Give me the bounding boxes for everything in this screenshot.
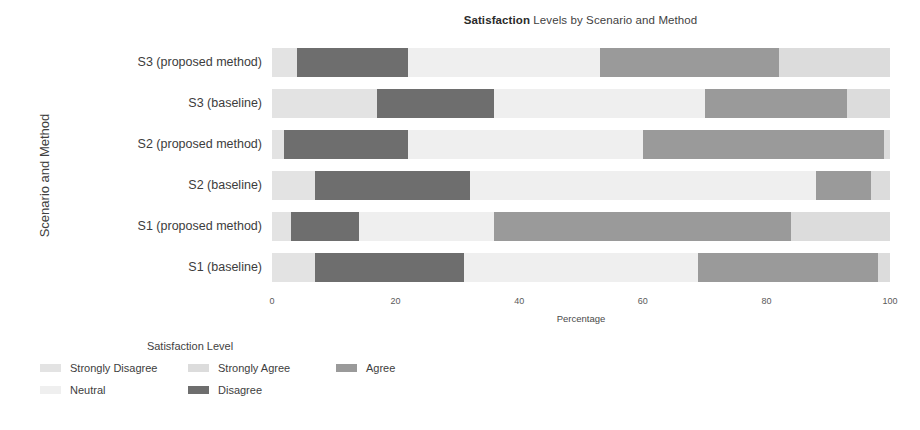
bar-row xyxy=(272,48,890,77)
bar-segment xyxy=(494,212,791,241)
legend-swatch-icon xyxy=(188,364,209,372)
legend-title: Satisfaction Level xyxy=(40,340,340,352)
legend-item-label: Strongly Disagree xyxy=(70,362,157,374)
x-axis-tick-label: 20 xyxy=(391,296,401,306)
bar-segment xyxy=(272,253,315,282)
bar-segment xyxy=(884,130,890,159)
bar-segment xyxy=(871,171,890,200)
bar-row xyxy=(272,130,890,159)
chart-title-rest: Levels by Scenario and Method xyxy=(530,14,697,26)
bar-segment xyxy=(779,48,890,77)
bar-segment xyxy=(377,89,494,118)
legend: Satisfaction Level Strongly DisagreeDisa… xyxy=(40,340,460,412)
plot-area xyxy=(272,44,890,292)
bar-row xyxy=(272,171,890,200)
y-axis-tick-label: S1 (proposed method) xyxy=(12,219,262,233)
bar-row xyxy=(272,253,890,282)
bar-segment xyxy=(464,253,699,282)
y-axis-tick-label: S3 (baseline) xyxy=(12,96,262,110)
bar-segment xyxy=(408,130,643,159)
legend-item-label: Agree xyxy=(366,362,395,374)
bar-segment xyxy=(494,89,704,118)
legend-swatch-icon xyxy=(188,386,209,394)
bar-segment xyxy=(705,89,847,118)
legend-item[interactable]: Disagree xyxy=(188,384,262,396)
y-axis-tick-labels: S3 (proposed method)S3 (baseline)S2 (pro… xyxy=(10,44,262,292)
x-axis-tick-label: 40 xyxy=(514,296,524,306)
legend-swatch-icon xyxy=(40,386,61,394)
legend-swatch-icon xyxy=(336,364,357,372)
bar-segment xyxy=(698,253,877,282)
y-axis-tick-label: S1 (baseline) xyxy=(12,260,262,274)
legend-item[interactable]: Strongly Disagree xyxy=(40,362,157,374)
bar-segment xyxy=(470,171,816,200)
x-axis-tick-labels: 020406080100 xyxy=(272,296,890,312)
bar-segment xyxy=(791,212,890,241)
bar-segment xyxy=(297,48,408,77)
y-axis-tick-label: S3 (proposed method) xyxy=(12,55,262,69)
legend-item[interactable]: Neutral xyxy=(40,384,105,396)
x-axis-tick-label: 100 xyxy=(882,296,897,306)
legend-item[interactable]: Agree xyxy=(336,362,395,374)
x-axis-tick-label: 0 xyxy=(269,296,274,306)
bar-segment xyxy=(272,89,377,118)
legend-swatch-icon xyxy=(40,364,61,372)
chart-title-emphasis: Satisfaction xyxy=(464,14,530,26)
bar-row xyxy=(272,89,890,118)
bar-segment xyxy=(272,212,291,241)
legend-item-label: Strongly Agree xyxy=(218,362,290,374)
bar-segment xyxy=(878,253,890,282)
bar-segment xyxy=(284,130,408,159)
chart-title: Satisfaction Levels by Scenario and Meth… xyxy=(271,14,890,26)
bar-segment xyxy=(315,171,470,200)
bar-segment xyxy=(291,212,359,241)
legend-item[interactable]: Strongly Agree xyxy=(188,362,290,374)
bar-segment xyxy=(359,212,495,241)
bar-segment xyxy=(272,48,297,77)
bar-segment xyxy=(847,89,890,118)
bar-segment xyxy=(272,171,315,200)
bar-row xyxy=(272,212,890,241)
bar-segment xyxy=(600,48,779,77)
x-axis-title: Percentage xyxy=(272,313,890,324)
x-axis-tick-label: 80 xyxy=(761,296,771,306)
y-axis-tick-label: S2 (proposed method) xyxy=(12,137,262,151)
bar-segment xyxy=(643,130,884,159)
bar-segment xyxy=(315,253,463,282)
y-axis-tick-label: S2 (baseline) xyxy=(12,178,262,192)
bar-segment xyxy=(816,171,872,200)
legend-item-label: Disagree xyxy=(218,384,262,396)
bar-segment xyxy=(272,130,284,159)
legend-item-label: Neutral xyxy=(70,384,105,396)
bar-segment xyxy=(408,48,600,77)
chart-canvas: Satisfaction Levels by Scenario and Meth… xyxy=(0,0,920,430)
x-axis-tick-label: 60 xyxy=(638,296,648,306)
